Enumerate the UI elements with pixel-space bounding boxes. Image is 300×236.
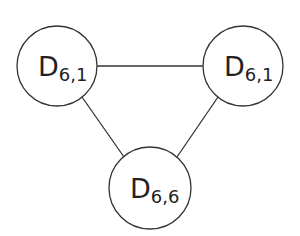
node-n1: D6,1: [17, 26, 97, 106]
node-n1-subscript: 6,1: [59, 64, 88, 85]
edge-n1-n3: [82, 97, 124, 157]
graph-diagram: D6,1 D6,1 D6,6: [0, 0, 300, 236]
node-n1-label: D: [38, 51, 59, 82]
node-n2-subscript: 6,1: [245, 64, 274, 85]
node-n3: D6,6: [109, 147, 191, 229]
node-n3-label: D: [130, 173, 151, 204]
node-n2: D6,1: [203, 26, 283, 106]
edge-n2-n3: [177, 97, 218, 157]
node-n2-label: D: [224, 51, 245, 82]
node-n3-subscript: 6,6: [151, 186, 180, 207]
